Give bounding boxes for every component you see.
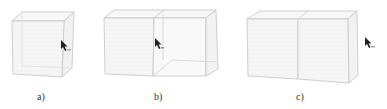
figure-canvas: [0, 0, 387, 109]
panel-a-label: a): [37, 91, 45, 102]
panel-c-box: [247, 11, 358, 83]
cursor-icon: [365, 37, 375, 48]
panel-c-label: c): [296, 91, 304, 102]
panel-b-label: b): [154, 91, 162, 102]
panel-b-box: [104, 10, 218, 76]
